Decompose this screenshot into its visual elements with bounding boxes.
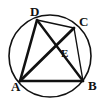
vertex-label-D: D [30,4,39,19]
segment-DB-diagonal [37,20,83,81]
geometry-figure: A B C D E [0,0,101,112]
vertex-label-C: C [79,14,88,29]
geometry-canvas: A B C D E [0,0,101,112]
vertex-label-B: B [88,78,97,93]
vertex-label-E: E [61,47,68,59]
vertex-label-A: A [11,79,21,94]
